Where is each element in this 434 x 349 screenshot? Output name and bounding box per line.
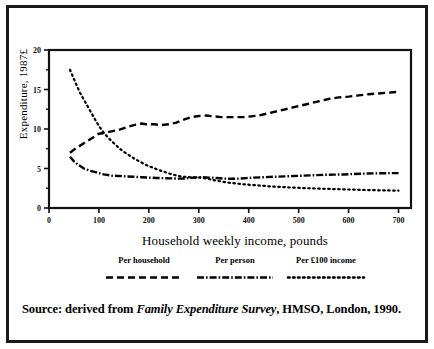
source-prefix: Source: derived from — [22, 302, 136, 316]
x-axis-tick-label: 700 — [393, 216, 405, 225]
x-axis-tick-label: 200 — [143, 216, 155, 225]
x-axis-tick-label: 400 — [243, 216, 255, 225]
source-publication-title: Family Expenditure Survey — [136, 302, 276, 316]
source-caption: Source: derived from Family Expenditure … — [22, 302, 414, 317]
legend-line-swatch — [104, 266, 184, 271]
y-axis-title: Expenditure, 1987£ — [17, 34, 29, 154]
x-axis-title: Household weekly income, pounds — [55, 233, 415, 249]
series-line — [70, 92, 399, 153]
x-axis-tick-label: 100 — [93, 216, 105, 225]
figure-root: 051015200100200300400500600700 Expenditu… — [0, 0, 434, 349]
legend-line-swatch — [286, 266, 366, 271]
x-axis-tick-label: 500 — [293, 216, 305, 225]
x-axis-tick-label: 300 — [193, 216, 205, 225]
y-axis-tick-label: 5 — [37, 165, 41, 174]
legend-entry: Per household — [104, 256, 184, 271]
plot-frame — [49, 50, 411, 208]
y-axis-tick-label: 0 — [37, 204, 41, 213]
y-axis-tick-label: 15 — [33, 86, 41, 95]
legend-entry: Per £100 income — [286, 256, 366, 271]
legend-label: Per household — [118, 256, 170, 265]
x-axis-tick-label: 0 — [47, 216, 51, 225]
legend-label: Per person — [215, 256, 254, 265]
y-axis-tick-label: 10 — [33, 125, 41, 134]
chart-area: 051015200100200300400500600700 Expenditu… — [0, 0, 434, 290]
source-suffix: , HMSO, London, 1990. — [276, 302, 401, 316]
series-line — [70, 157, 399, 179]
legend-entry: Per person — [195, 256, 275, 271]
y-axis-tick-label: 20 — [33, 46, 41, 55]
legend-line-swatch — [195, 266, 275, 271]
chart-legend: Per householdPer personPer £100 income — [55, 256, 415, 271]
legend-label: Per £100 income — [296, 256, 356, 265]
x-axis-tick-label: 600 — [343, 216, 355, 225]
